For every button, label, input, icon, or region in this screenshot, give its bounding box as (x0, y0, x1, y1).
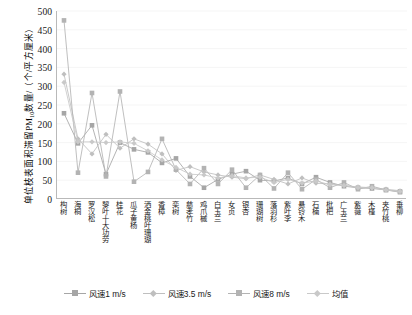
x-tick-label: 广玉兰 (339, 201, 347, 222)
x-tick-label: 夹竹桃 (381, 201, 389, 222)
legend-label: 风速3.5 m/s (168, 287, 211, 299)
data-point (132, 147, 137, 152)
data-point (285, 181, 290, 186)
legend-label: 风速8 m/s (253, 287, 289, 299)
x-tick-label: 罗汉松 (87, 201, 95, 222)
data-point (216, 182, 221, 187)
data-point (90, 91, 95, 96)
legend-marker-square (72, 290, 78, 296)
x-tick-label: 紫叶李 (283, 201, 291, 222)
data-point (146, 170, 151, 175)
data-point (61, 72, 66, 77)
legend-label: 风速1 m/s (89, 287, 125, 299)
legend-swatch (307, 289, 329, 298)
legend-item-4: 均值 (307, 287, 348, 299)
series-line (64, 20, 400, 192)
series-1 (62, 111, 403, 194)
data-point (243, 175, 248, 180)
x-tick-label: 桂花 (115, 201, 123, 215)
y-tick-label: 350 (38, 62, 52, 73)
data-point (62, 18, 67, 23)
data-point (244, 185, 249, 190)
x-tick-label: 黎叶十大功劳 (101, 201, 109, 243)
data-point (174, 156, 179, 161)
x-tick-label: 紫薇 (353, 201, 361, 215)
data-point (89, 139, 94, 144)
data-point (188, 182, 193, 187)
legend-item-2: 风速3.5 m/s (143, 287, 211, 299)
data-point (62, 111, 67, 116)
data-point (160, 137, 165, 142)
legend-swatch (228, 289, 250, 298)
y-tick-label: 250 (38, 100, 52, 111)
x-tick-label: 银杏 (241, 201, 249, 215)
legend-swatch (64, 289, 86, 298)
y-tick-label: 100 (38, 156, 52, 167)
data-point (76, 170, 81, 175)
x-tick-label: 洒金桃叶珊瑚 (143, 201, 151, 243)
x-tick-label: 瓜子黄杨 (129, 201, 137, 229)
legend-swatch (143, 289, 165, 298)
y-tick-label: 300 (38, 81, 52, 92)
data-point (118, 89, 123, 94)
data-point (187, 164, 192, 169)
x-tick-label: 落羽杉 (269, 201, 277, 222)
y-tick-label: 150 (38, 137, 52, 148)
data-point (202, 185, 207, 190)
data-point (299, 175, 304, 180)
y-tick-label: 200 (38, 118, 52, 129)
y-tick-label: 50 (42, 175, 52, 186)
data-point (230, 167, 235, 172)
legend-item-1: 风速1 m/s (64, 287, 125, 299)
x-tick-label: 构树 (59, 201, 67, 215)
data-point (132, 179, 137, 184)
x-tick-label: 垂柳 (395, 201, 403, 215)
data-point (202, 166, 207, 171)
data-point (131, 136, 136, 141)
data-point (131, 141, 136, 146)
x-tick-label: 海桐 (73, 201, 81, 215)
data-point (201, 172, 206, 177)
chart-figure: 单位枝表面积滞留PM10数量/（个/平方厘米） 0501001502002503… (0, 0, 412, 315)
chart-legend: 风速1 m/s风速3.5 m/s风速8 m/s均值 (0, 287, 412, 299)
y-tick-label: 400 (38, 43, 52, 54)
y-axis-tick-labels: 050100150200250300350400450500 (0, 0, 56, 199)
legend-marker-diamond (150, 290, 156, 296)
x-tick-label: 珊瑚树 (255, 201, 263, 222)
chart-canvas (57, 11, 407, 199)
x-axis-tick-labels: 构树海桐罗汉松黎叶十大功劳桂花瓜子黄杨洒金桃叶珊瑚香樟栾树慈孝竹鸡爪槭白玉兰女贞… (56, 201, 406, 263)
x-tick-label: 木槿 (367, 201, 375, 215)
x-tick-label: 女贞 (227, 201, 235, 215)
y-tick-label: 500 (38, 6, 52, 17)
x-tick-label: 白玉兰 (213, 201, 221, 222)
data-point (300, 187, 305, 192)
data-point (103, 140, 108, 145)
x-tick-label: 枇杷 (325, 201, 333, 215)
plot-area (56, 11, 406, 199)
data-point (272, 186, 277, 191)
y-tick-label: 0 (47, 194, 52, 205)
x-tick-label: 悬铃木 (297, 201, 305, 222)
data-point (286, 170, 291, 175)
data-point (104, 174, 109, 179)
x-tick-label: 慈孝竹 (185, 201, 193, 222)
x-tick-label: 栾树 (171, 201, 179, 215)
x-tick-label: 石楠 (311, 201, 319, 215)
data-point (244, 169, 249, 174)
legend-marker-diamond (314, 290, 320, 296)
x-tick-label: 香樟 (157, 201, 165, 215)
y-tick-label: 450 (38, 24, 52, 35)
legend-marker-square (236, 290, 242, 296)
legend-label: 均值 (332, 287, 348, 299)
x-tick-label: 鸡爪槭 (199, 201, 207, 222)
legend-item-3: 风速8 m/s (228, 287, 289, 299)
series-3 (62, 18, 403, 194)
data-point (90, 123, 95, 128)
